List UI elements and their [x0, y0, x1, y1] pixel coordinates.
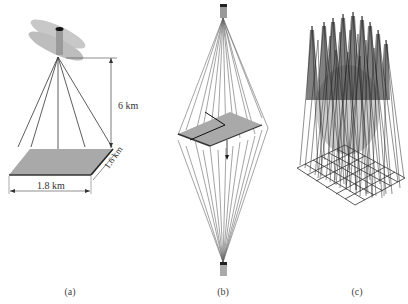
- satellite-icon: [56, 29, 63, 55]
- panel-c-drawing: [297, 12, 405, 205]
- ground-patch: [178, 112, 262, 146]
- panel-b-caption: (b): [217, 286, 229, 297]
- ground-patch: [9, 149, 112, 175]
- panel-a-drawing: [9, 14, 117, 194]
- figure-canvas: [0, 0, 408, 304]
- panel-c-caption: (c): [351, 286, 362, 297]
- width-dimension-label: 1.8 km: [37, 180, 65, 191]
- panel-b-drawing: [178, 4, 268, 276]
- panel-a-caption: (a): [64, 286, 75, 297]
- height-dimension-label: 6 km: [118, 100, 138, 111]
